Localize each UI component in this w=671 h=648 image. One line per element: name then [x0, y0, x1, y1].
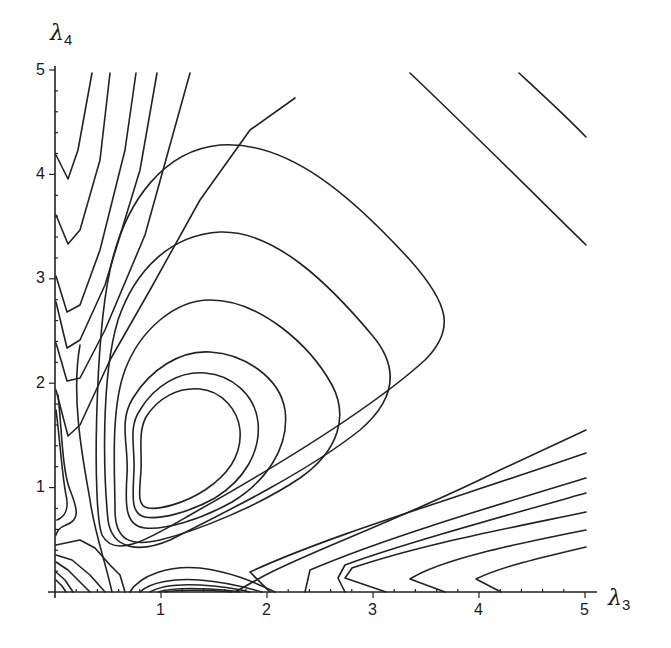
upper-right-contours: [410, 73, 586, 245]
x-tick-label: 2: [262, 601, 271, 619]
closed-contours: [96, 145, 444, 548]
y-tick-label: 2: [36, 374, 45, 392]
y-tick-label: 5: [36, 61, 45, 79]
x-tick-label: 5: [580, 601, 589, 619]
y-tick-label: 1: [36, 478, 45, 496]
contour-plot: [0, 0, 671, 648]
x-major-ticks: [161, 592, 585, 598]
x-tick-label: 1: [156, 601, 165, 619]
x-axis-label: λ3: [608, 585, 630, 613]
x-tick-label: 4: [474, 601, 483, 619]
y-major-ticks: [49, 70, 55, 488]
y-axis-label: λ4: [50, 20, 72, 48]
y-tick-label: 3: [36, 269, 45, 287]
upper-left-contours: [56, 73, 295, 436]
x-tick-label: 3: [368, 601, 377, 619]
lower-right-contours: [235, 430, 586, 592]
y-tick-label: 4: [36, 165, 45, 183]
